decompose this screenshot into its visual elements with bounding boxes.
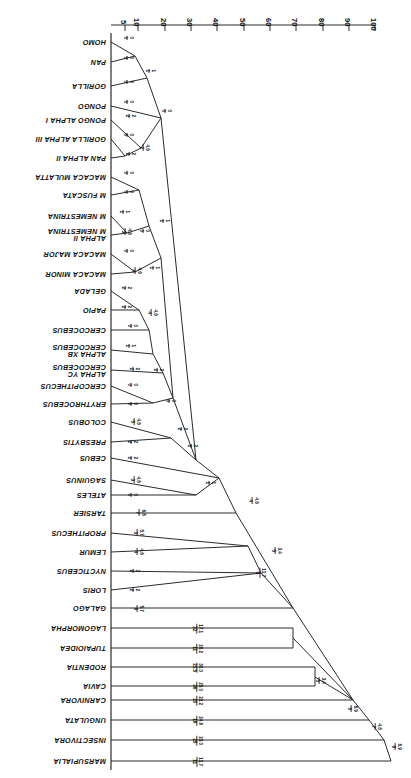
branch-length-nycticebus: 3 2 — [128, 569, 139, 573]
axis-tick-50: 50 — [238, 18, 247, 26]
taxon-label-loris: LORIS — [83, 587, 106, 594]
taxon-label-cercocebus-alpha-yc: ALPHA YC CERCOCEBUS — [52, 364, 106, 378]
branch-length-saguinus: 4.6 3 — [129, 476, 140, 483]
branch-length-cercocebus: 0 0 — [126, 324, 137, 328]
taxon-label-m-fuscata: M FUSCATA — [62, 192, 106, 199]
branch-length-denominator: 21.5 — [192, 663, 198, 673]
branch-length-numerator: 2 — [132, 456, 137, 460]
taxon-label-macaca-minor: MACACA MINOR — [45, 271, 106, 278]
branch-length-catarrhine: 2 2 — [186, 444, 197, 448]
branch-length-fuscata: 0 0 — [122, 190, 133, 194]
phylogenetic-tree-figure: MARSUPIALIA INSECTIVORA UNGULATA CARNIVO… — [0, 0, 411, 778]
taxon-label-line2: CERCOCEBUS — [52, 344, 106, 351]
branch-length-numerator: 0 — [132, 324, 137, 328]
branch-length-galago: 5.7 6 — [132, 605, 143, 612]
branch-length-numerator: 4.6 — [376, 723, 381, 730]
branch-length-numerator: 4.6 — [253, 497, 258, 504]
branch-length-pongo: 0 0 — [122, 100, 133, 104]
taxon-label-lemur: LEMUR — [79, 549, 106, 556]
taxon-label-saguinus: SAGUINUS — [66, 477, 106, 484]
branch-length-pan-ii: 2 2 — [124, 152, 135, 156]
branch-length-numerator: 26.2 — [198, 644, 203, 654]
branch-length-numerator: 17.1 — [198, 624, 203, 634]
branch-length-homo: 0 0 — [122, 36, 133, 40]
branch-length-gorilla-iii: 0 0 — [122, 133, 133, 137]
branch-length-numerator: 0 — [132, 493, 137, 497]
branch-length-nemest: 1 1 — [118, 210, 129, 214]
axis-tick-30: 30 — [185, 18, 194, 26]
axis-tick-20: 20 — [159, 18, 168, 26]
branch-length-cerco-yc: 2 2 — [128, 367, 139, 371]
taxon-label-tarsier: TARSIER — [73, 510, 106, 517]
taxon-label-pan-alpha-ii: PAN ALPHA II — [56, 155, 106, 162]
branch-length-numerator: 0 — [166, 109, 171, 113]
branch-length-prosimian-b: 3.4 5 — [270, 547, 281, 554]
branch-length-macaca-major: 0 0 — [122, 249, 133, 253]
branch-length-colobine: 2 2 — [176, 427, 187, 431]
axis-tick-70: 70 — [290, 18, 299, 26]
branch-length-tupaioidea: 26.2 11 — [192, 644, 203, 654]
taxon-label-pongo: PONGO — [78, 103, 106, 110]
taxon-label-rodentia: RODENTIA — [66, 664, 106, 671]
branch-length-numerator: 1 — [130, 344, 135, 348]
branch-length-macaca-minor: 4.6 4 — [130, 267, 141, 274]
branch-length-cercop-node: 0 0 — [164, 399, 175, 403]
taxon-label-erythrocebus: ERYTHROCEBUS — [43, 401, 106, 408]
branch-length-numerator: 5.7 — [138, 605, 143, 612]
branch-length-numerator: 1 — [210, 481, 215, 485]
taxon-label-nycticebus: NYCTICEBUS — [57, 568, 106, 575]
branch-length-numerator: 3.4 — [276, 547, 281, 554]
branch-length-cercopithecus: 0 0 — [126, 383, 137, 387]
taxon-label-galago: GALAGO — [73, 605, 106, 612]
branch-length-mulatta: 0 0 — [122, 171, 133, 175]
branch-length-numerator: 0 — [144, 229, 149, 233]
taxon-label-cercocebus-alpha-xb: ALPHA XB CERCOCEBUS — [52, 344, 106, 358]
branch-length-numerator: 2 — [126, 305, 131, 309]
branch-length-papio-node: 4.6 4 — [146, 309, 157, 316]
branch-length-numerator: 1 — [124, 210, 129, 214]
branch-length-presbytis: 2 2 — [126, 440, 137, 444]
branch-length-root-c: 6.9 5 — [346, 705, 357, 712]
taxon-label-presbytis: PRESBYTIS — [63, 439, 106, 446]
branch-length-numerator: 0 — [128, 190, 133, 194]
axis-tick-100: 100 — [369, 18, 378, 31]
branch-length-cavia: 25.0 36 — [192, 682, 203, 692]
branch-length-loris: 2 2 — [128, 588, 139, 592]
branch-length-lagomorpha: 17.1 22 — [192, 624, 203, 634]
branch-length-numerator: 4.6 — [144, 144, 149, 151]
taxon-label-line2: CERCOCEBUS — [52, 364, 106, 371]
taxon-label-macaca-major: MACACA MAJOR — [43, 251, 106, 258]
taxon-label-marsupialia: MARSUPIALIA — [53, 758, 106, 765]
taxon-label-carnivora: CARNIVORA — [60, 697, 106, 704]
axis-tick-40: 40 — [211, 18, 220, 26]
branch-length-alpha-node: 4.6 2 — [138, 144, 149, 151]
branch-length-numerator: 0 — [128, 80, 133, 84]
taxon-label-lagomorpha: LAGOMORPHA — [51, 625, 106, 632]
taxon-label-tupaioidea: TUPAIOIDEA — [60, 645, 106, 652]
branch-length-propithecus: 5.7 3 — [132, 529, 143, 536]
branch-length-numerator: 25.0 — [198, 682, 203, 692]
taxon-label-gorilla-alpha-iii: GORILLA ALPHA III — [35, 136, 106, 143]
branch-length-root-a: 6.9 8 — [390, 743, 401, 750]
branch-length-ateles: 0 0 — [126, 493, 137, 497]
branch-length-insectivora: 23.0 25 — [192, 736, 203, 746]
branch-length-pongo-i: 2 2 — [124, 114, 135, 118]
branch-length-numerator: 0 — [128, 36, 133, 40]
branch-length-nemest-node: 0 0 — [138, 229, 149, 233]
branch-length-hominoid: 0 0 — [160, 109, 171, 113]
taxon-label-homo: HOMO — [83, 39, 106, 46]
taxon-label-propithecus: PROPITHECUS — [51, 530, 106, 537]
branch-length-anthropoid: 4.6 4 — [247, 497, 258, 504]
branch-length-macaca-node: 1 1 — [148, 266, 159, 270]
branch-length-numerator: 3 — [134, 569, 139, 573]
axis-tick-10: 10 — [132, 18, 141, 26]
branch-length-numerator: 1 — [164, 219, 169, 223]
plot-area: MARSUPIALIA INSECTIVORA UNGULATA CARNIVO… — [0, 0, 411, 778]
branch-length-numerator: 2 — [158, 368, 163, 372]
branch-length-numerator: 11.7 — [261, 568, 266, 578]
branch-length-macaque-node: 1 1 — [158, 219, 169, 223]
branch-length-numerator: 1 — [154, 266, 159, 270]
branch-length-numerator: 2 — [192, 444, 197, 448]
branch-length-papio: 2 2 — [120, 305, 131, 309]
branch-length-lemur: 4.6 4 — [132, 548, 143, 555]
